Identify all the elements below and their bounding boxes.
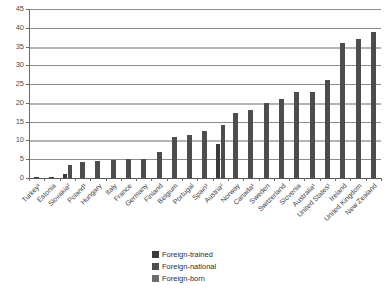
legend-item: Foreign-trained [152,249,282,260]
x-axis-tick-mark [151,178,152,181]
legend-swatch-foreign-born-icon [152,275,159,282]
legend-label: Foreign-national [162,262,216,271]
legend-label: Foreign-born [162,274,205,283]
legend-item: Foreign-born [152,273,282,284]
bar-chart: 051015202530354045 Turkey¹EstoniaSlovaki… [0,0,388,293]
x-axis-tick-mark [228,178,229,181]
x-axis-tick-mark [243,178,244,181]
x-axis-tick-mark [274,178,275,181]
x-axis-tick-mark [44,178,45,181]
x-axis-tick-mark [75,178,76,181]
x-axis-tick-mark [136,178,137,181]
legend-swatch-foreign-trained-icon [152,251,159,258]
legend-swatch-foreign-national-icon [152,263,159,270]
legend-label: Foreign-trained [162,250,213,259]
chart-legend: Foreign-trained Foreign-national Foreign… [152,249,282,285]
x-axis-tick-mark [90,178,91,181]
x-axis-tick-mark [121,178,122,181]
x-axis-tick-mark [350,178,351,181]
x-axis-tick-mark [289,178,290,181]
x-axis-tick-mark [304,178,305,181]
x-axis-tick-mark [182,178,183,181]
x-axis-tick-mark [29,178,30,181]
legend-item: Foreign-national [152,261,282,272]
x-axis-tick-mark [366,178,367,181]
x-axis-tick-mark [213,178,214,181]
x-axis-tick-mark [335,178,336,181]
x-axis-tick-mark [197,178,198,181]
x-axis-tick-mark [60,178,61,181]
x-axis-tick-mark [167,178,168,181]
x-axis-tick-mark [106,178,107,181]
x-axis-tick-mark [259,178,260,181]
x-axis-tick-mark [320,178,321,181]
x-axis-tick-mark [381,178,382,181]
